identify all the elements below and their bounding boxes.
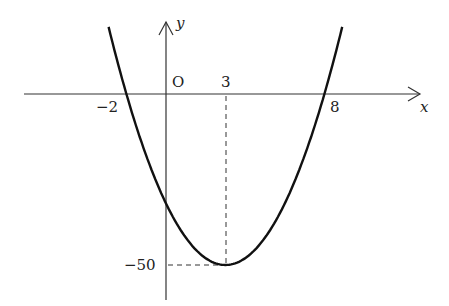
parabola-graph: y O 3 −2 8 x −50	[0, 0, 449, 306]
tick-label-neg2: −2	[96, 98, 118, 116]
y-axis-label: y	[175, 14, 185, 32]
tick-label-8: 8	[330, 98, 340, 116]
x-axis-label: x	[420, 98, 429, 116]
parabola-curve	[109, 27, 343, 265]
tick-label-neg50: −50	[124, 256, 156, 274]
tick-label-3: 3	[221, 73, 231, 91]
origin-label: O	[172, 73, 184, 91]
